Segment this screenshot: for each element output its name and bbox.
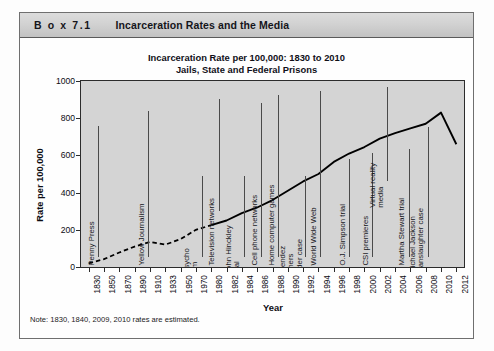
annotation-rule: [202, 176, 203, 257]
x-tick-mark: [288, 268, 289, 272]
x-tick-label: 1992: [306, 275, 316, 293]
annotation-label: World Wide Web: [310, 207, 319, 265]
x-tick-mark: [380, 268, 381, 272]
box-body: Incarceration Rate per 100,000: 1830 to …: [20, 38, 473, 338]
y-axis-label: Rate per 100,000: [35, 125, 45, 245]
x-tick-mark: [181, 268, 182, 272]
annotation-label-line: Cell phone networks: [251, 195, 260, 266]
x-tick-mark: [410, 268, 411, 272]
x-tick-mark: [119, 268, 120, 272]
x-tick-label: 1870: [123, 275, 133, 293]
x-tick-label: 1910: [153, 275, 163, 293]
annotation-label: Menendezbrothersmurder case: [278, 239, 303, 268]
annotation-label: Martha Stewart trial: [398, 198, 407, 266]
x-tick-mark: [165, 268, 166, 272]
x-tick-label: 1830: [92, 275, 102, 293]
x-tick-mark: [242, 268, 243, 272]
x-tick-label: 2008: [429, 275, 439, 293]
box-header: B o x 7.1 Incarceration Rates and the Me…: [20, 13, 473, 38]
figure-note: Note: 1830, 1840, 2009, 2010 rates are e…: [30, 315, 200, 324]
x-tick-label: 2012: [460, 275, 470, 293]
x-tick-label: 1996: [337, 275, 347, 293]
x-tick-mark: [395, 268, 396, 272]
x-tick-mark: [104, 268, 105, 272]
box-number-label: B o x 7.1: [34, 19, 92, 31]
x-tick-label: 1933: [168, 275, 178, 293]
annotation-label: Cell phone networks: [251, 195, 260, 266]
annotation-rule: [305, 176, 306, 257]
x-tick-label: 2010: [444, 275, 454, 293]
annotation-label: Penny Press: [88, 221, 97, 265]
x-tick-label: 2002: [383, 275, 393, 293]
x-tick-mark: [257, 268, 258, 272]
chart-title-line-1: Incarceration Rate per 100,000: 1830 to …: [20, 52, 473, 64]
annotation-rule: [387, 87, 388, 181]
annotation-label: Television networks: [209, 198, 218, 266]
annotation-label: O.J. Simpson trial: [339, 204, 348, 266]
x-tick-label: 1994: [322, 275, 332, 293]
annotation-label-line: Television networks: [209, 198, 218, 266]
x-tick-mark: [196, 268, 197, 272]
annotation-rule: [320, 91, 321, 257]
x-tick-mark: [364, 268, 365, 272]
x-tick-label: 2006: [414, 275, 424, 293]
annotation-rule: [148, 111, 149, 257]
x-tick-label: 1984: [245, 275, 255, 293]
x-tick-mark: [318, 268, 319, 272]
annotation-rule: [261, 103, 262, 257]
x-tick-mark: [211, 268, 212, 272]
x-tick-label: 1998: [352, 275, 362, 293]
x-axis-label: Year: [80, 302, 466, 313]
x-tick-label: 1950: [184, 275, 194, 293]
y-tick-label: 200: [61, 225, 75, 235]
screenshot-root: B o x 7.1 Incarceration Rates and the Me…: [0, 0, 494, 351]
annotation-label-line: murder case: [295, 239, 303, 268]
x-tick-mark: [273, 268, 274, 272]
y-tick-label: 800: [61, 113, 75, 123]
annotation-label-line: O.J. Simpson trial: [339, 204, 348, 266]
annotation-rule: [428, 127, 429, 257]
x-tick-mark: [303, 268, 304, 272]
x-tick-label: 2004: [398, 275, 408, 293]
annotation-label-line: manslaughter case: [418, 208, 426, 268]
x-tick-label: 2000: [368, 275, 378, 293]
x-tick-label: 1850: [107, 275, 117, 293]
annotation-rule: [278, 95, 279, 257]
y-tick-label: 0: [70, 262, 75, 272]
x-tick-label: 1986: [260, 275, 270, 293]
annotation-rule: [98, 126, 99, 257]
x-tick-label: 1890: [138, 275, 148, 293]
annotation-label: CSI premieres: [362, 216, 371, 266]
y-tick-label: 1000: [56, 76, 75, 86]
annotation-label: Home computer games: [268, 185, 277, 266]
x-tick-mark: [349, 268, 350, 272]
annotation-rule: [219, 99, 220, 211]
x-tick-label: 1982: [230, 275, 240, 293]
annotation-label: Psychofilm: [183, 248, 200, 268]
x-tick-mark: [227, 268, 228, 272]
annotation-label-line: Yellow Journalism: [138, 203, 147, 265]
annotation-label-line: media: [377, 163, 385, 208]
chart-title: Incarceration Rate per 100,000: 1830 to …: [20, 52, 473, 75]
x-tick-label: 1970: [199, 275, 209, 293]
y-tick-label: 400: [61, 188, 75, 198]
x-tick-label: 1990: [291, 275, 301, 293]
x-tick-mark: [135, 268, 136, 272]
annotation-label-line: Penny Press: [88, 221, 97, 265]
x-tick-label: 1980: [214, 275, 224, 293]
annotation-label: Virtual realitymedia: [369, 163, 386, 208]
plot-area: Penny PressYellow JournalismPsychofilmTe…: [80, 80, 465, 268]
annotation-label-line: trial: [234, 225, 242, 268]
x-tick-label: 1988: [276, 275, 286, 293]
x-tick-mark: [456, 268, 457, 272]
annotation-label-line: film: [192, 248, 200, 268]
x-tick-mark: [334, 268, 335, 272]
y-axis: Rate per 100,000 02004006008001000: [20, 80, 80, 270]
annotation-label-line: CSI premieres: [362, 216, 371, 266]
annotation-label-line: Home computer games: [268, 185, 277, 266]
annotation-label: John Hinckleytrial: [225, 225, 242, 268]
x-tick-mark: [426, 268, 427, 272]
annotation-label-line: World Wide Web: [310, 207, 319, 265]
annotation-label: Michael Jacksonmanslaughter case: [409, 208, 426, 268]
annotation-label-line: Martha Stewart trial: [398, 198, 407, 266]
